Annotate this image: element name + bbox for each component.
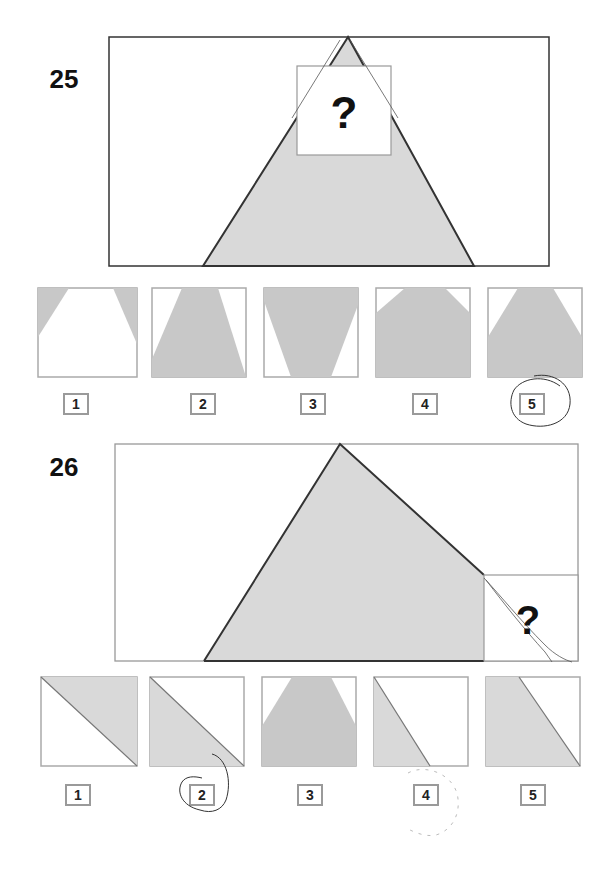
q25-option-1-label[interactable]: 1 <box>63 393 89 415</box>
pen-circle-mark <box>396 765 466 837</box>
q25-option-2[interactable] <box>151 287 247 378</box>
q25-option-3[interactable] <box>263 287 359 378</box>
q25-option-5[interactable] <box>487 287 583 378</box>
question-mark: ? <box>322 88 366 138</box>
q26-option-1[interactable] <box>40 676 138 767</box>
q25-option-4[interactable] <box>375 287 471 378</box>
q26-option-3-label[interactable]: 3 <box>297 784 323 806</box>
question-mark: ? <box>510 598 546 643</box>
q26-option-5[interactable] <box>485 676 581 767</box>
q25-option-3-label[interactable]: 3 <box>300 393 326 415</box>
q25-option-4-label[interactable]: 4 <box>412 393 438 415</box>
q26-option-1-label[interactable]: 1 <box>65 784 91 806</box>
pen-circle-mark <box>172 752 234 814</box>
q26-option-4[interactable] <box>373 676 469 767</box>
pen-circle-mark <box>504 372 576 432</box>
q26-option-5-label[interactable]: 5 <box>520 784 546 806</box>
q25-option-2-label[interactable]: 2 <box>190 393 216 415</box>
q26-option-3[interactable] <box>261 676 357 767</box>
question-25-figure <box>0 0 614 280</box>
q25-option-1[interactable] <box>37 287 138 378</box>
